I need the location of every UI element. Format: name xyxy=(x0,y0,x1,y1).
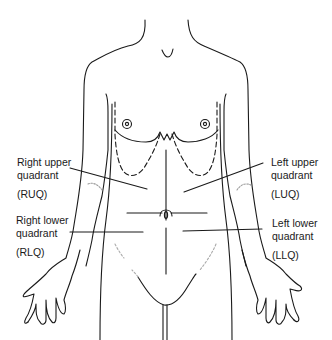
left-elbow-crease xyxy=(237,184,252,190)
label-ruq-line1: Right upper xyxy=(17,156,71,168)
label-llq-line2: quadrant xyxy=(272,230,313,242)
label-rlq-line1: Right lower xyxy=(16,214,69,226)
label-llq: Left lower quadrant (LLQ) xyxy=(272,217,318,262)
label-llq-abbr: (LLQ) xyxy=(272,249,318,262)
label-luq-line2: quadrant xyxy=(271,169,312,181)
label-rlq: Right lower quadrant (RLQ) xyxy=(16,214,69,259)
chest xyxy=(115,120,218,143)
abdominal-quadrants-diagram: Right upper quadrant (RUQ) Left upper qu… xyxy=(0,0,332,340)
label-rlq-abbr: (RLQ) xyxy=(16,246,69,259)
label-ruq-abbr: (RUQ) xyxy=(17,188,71,201)
label-luq-line1: Left upper xyxy=(271,156,318,168)
llq-leader-line xyxy=(183,229,262,231)
label-ruq: Right upper quadrant (RUQ) xyxy=(17,156,71,201)
ruq-leader-line xyxy=(70,168,147,189)
sternal-notch xyxy=(162,49,173,57)
label-rlq-line2: quadrant xyxy=(16,227,57,239)
label-luq-abbr: (LUQ) xyxy=(271,188,318,201)
label-llq-line1: Left lower xyxy=(272,217,318,229)
label-ruq-line2: quadrant xyxy=(17,169,58,181)
label-luq: Left upper quadrant (LUQ) xyxy=(271,156,318,201)
right-elbow-crease xyxy=(88,183,102,190)
